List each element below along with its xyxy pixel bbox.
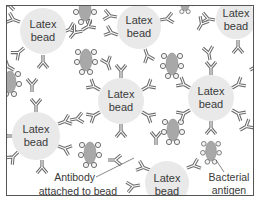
latex-agglutination-diagram: Latex bead Latex bead Latex bead Latex b… (0, 0, 259, 206)
svg-text:Latex: Latex (223, 7, 250, 19)
latex-bead-1: Latex bead (20, 8, 66, 54)
svg-text:Latex: Latex (126, 14, 153, 26)
svg-text:bead: bead (31, 31, 55, 43)
latex-bead-4: Latex bead (98, 78, 144, 124)
antibody-callout-line1: Antibody (54, 171, 96, 183)
svg-text:bead: bead (127, 27, 151, 39)
svg-text:Latex: Latex (108, 88, 135, 100)
antigen-callout-line1: Bacterial (209, 171, 250, 183)
svg-text:bead: bead (224, 20, 248, 32)
latex-bead-6: Latex bead (12, 112, 60, 160)
svg-text:Latex: Latex (154, 172, 181, 184)
antigen-callout-line2: antigen (212, 184, 247, 196)
svg-text:Latex: Latex (23, 123, 50, 135)
svg-text:bead: bead (109, 101, 133, 113)
latex-bead-2: Latex bead (117, 5, 161, 49)
svg-text:Latex: Latex (30, 18, 57, 30)
latex-bead-7: Latex bead (145, 161, 189, 205)
svg-text:Latex: Latex (198, 85, 225, 97)
latex-bead-5: Latex bead (188, 75, 234, 121)
svg-text:bead: bead (24, 136, 48, 148)
svg-text:bead: bead (199, 98, 223, 110)
